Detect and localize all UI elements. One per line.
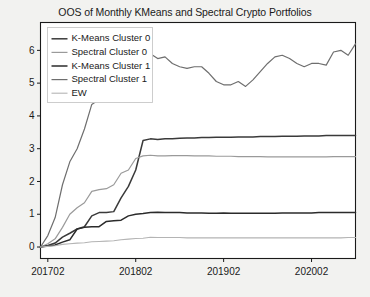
x-tick-label: 202002: [295, 266, 329, 277]
y-tick-label: 6: [29, 45, 35, 56]
y-tick-label: 3: [29, 143, 35, 154]
y-tick-label: 5: [29, 77, 35, 88]
legend-label: K-Means Cluster 1: [72, 60, 151, 71]
y-axis-ticks: 0123456: [29, 45, 41, 253]
plot-area: 0123456 201702201802201902202002 K-Means…: [0, 0, 370, 297]
y-tick-label: 1: [29, 208, 35, 219]
legend-label: Spectral Cluster 1: [72, 73, 148, 84]
y-tick-label: 4: [29, 110, 35, 121]
x-tick-label: 201702: [31, 266, 65, 277]
x-axis-ticks: 201702201802201902202002: [31, 259, 329, 277]
y-tick-label: 2: [29, 176, 35, 187]
legend-label: EW: [72, 87, 87, 98]
legend-label: Spectral Cluster 0: [72, 46, 148, 57]
x-tick-label: 201802: [119, 266, 153, 277]
chart-legend: K-Means Cluster 0Spectral Cluster 0K-Mea…: [48, 28, 153, 103]
y-tick-label: 0: [29, 241, 35, 252]
x-tick-label: 201902: [207, 266, 241, 277]
legend-label: K-Means Cluster 0: [72, 32, 151, 43]
chart-figure: OOS of Monthly KMeans and Spectral Crypt…: [0, 0, 370, 297]
